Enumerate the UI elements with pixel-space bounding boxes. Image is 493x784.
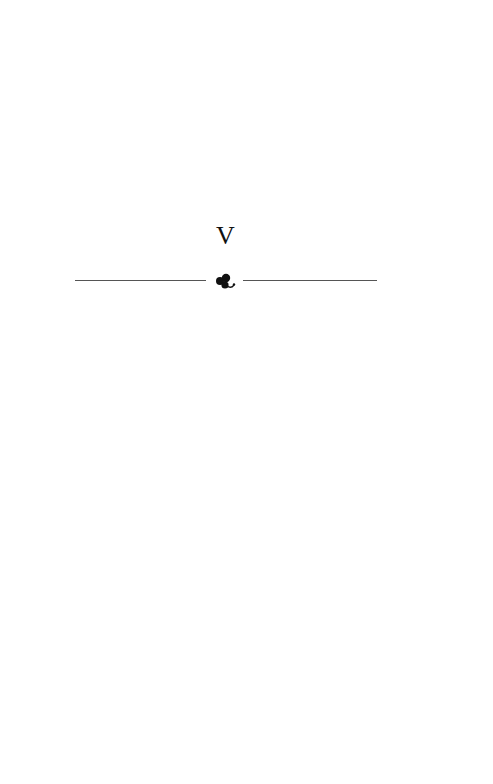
divider-rule-right <box>243 280 377 281</box>
divider-rule-left <box>75 280 206 281</box>
chapter-heading: V <box>0 222 451 250</box>
fleuron-ornament-icon <box>213 272 237 292</box>
